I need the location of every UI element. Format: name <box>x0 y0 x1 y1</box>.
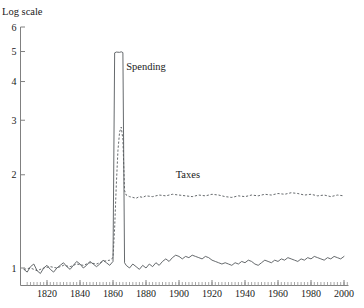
x-tick-label: 1980 <box>301 288 321 299</box>
series-path-taxes <box>24 127 344 271</box>
log-scale-line-chart: 6543211820184018601880190019201940196019… <box>0 0 364 308</box>
x-tick-label: 1860 <box>103 288 123 299</box>
series-annotation-taxes: Taxes <box>176 169 200 180</box>
y-tick-label: 5 <box>12 46 17 57</box>
x-tick-label: 1880 <box>136 288 156 299</box>
x-tick-label: 1820 <box>37 288 57 299</box>
series-path-spending <box>24 52 344 274</box>
x-tick-label: 2000 <box>334 288 354 299</box>
y-tick-label: 4 <box>12 76 17 87</box>
y-tick-label: 6 <box>12 22 17 33</box>
x-tick-label: 1940 <box>235 288 255 299</box>
y-tick-label: 1 <box>12 263 17 274</box>
series-annotation-spending: Spending <box>126 61 166 72</box>
chart-container: 6543211820184018601880190019201940196019… <box>0 0 364 308</box>
x-tick-label: 1840 <box>70 288 90 299</box>
chart-axis-title: Log scale <box>2 6 43 17</box>
y-tick-label: 3 <box>12 115 17 126</box>
x-tick-label: 1920 <box>202 288 222 299</box>
y-tick-label: 2 <box>12 169 17 180</box>
x-tick-label: 1900 <box>169 288 189 299</box>
x-tick-label: 1960 <box>268 288 288 299</box>
